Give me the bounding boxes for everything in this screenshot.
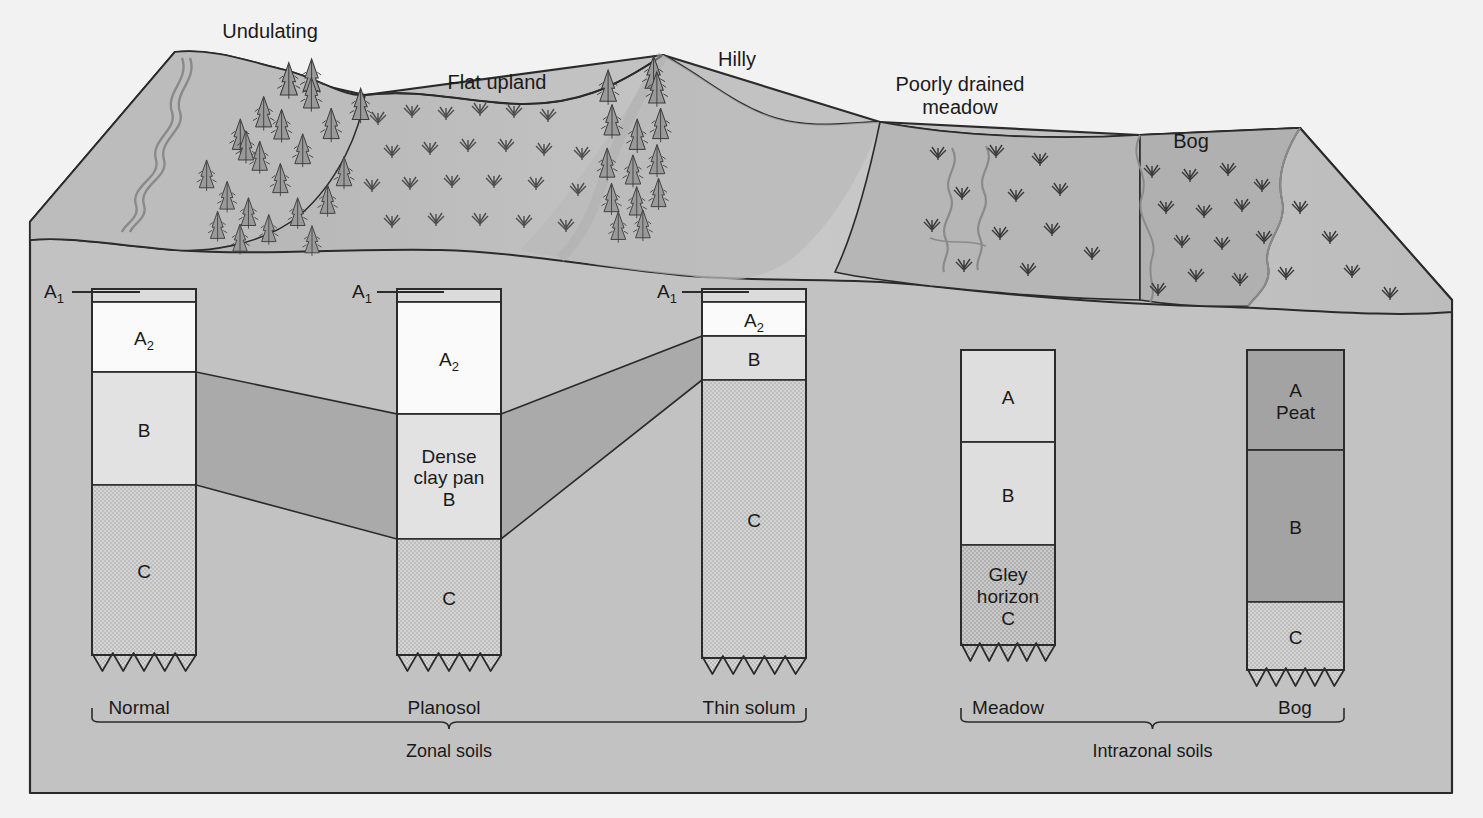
- profile-name-planosol: Planosol: [354, 697, 534, 719]
- horizon-label-meadow-C: GleyhorizonC: [961, 564, 1055, 630]
- group-label-zonal: Zonal soils: [309, 741, 589, 762]
- horizon-A1: [702, 289, 806, 302]
- profile-name-normal: Normal: [49, 697, 229, 719]
- horizon-label-normal-C: C: [92, 561, 196, 583]
- soil-profile-thin-solum: [702, 289, 806, 674]
- landscape-label-undulating: Undulating: [150, 20, 390, 43]
- horizon-label-planosol-A2: A2: [397, 349, 501, 375]
- horizon-label-bog-C: C: [1247, 627, 1344, 649]
- landscape-label-hilly: Hilly: [617, 48, 857, 71]
- horizon-label-meadow-AB2: B: [961, 485, 1055, 507]
- horizon-label-planosol-C: C: [397, 588, 501, 610]
- profile-name-thin-solum: Thin solum: [659, 697, 839, 719]
- axis-label-a1-normal: A1: [44, 281, 64, 307]
- horizon-label-meadow-AB: A: [961, 387, 1055, 409]
- axis-label-a1-planosol: A1: [352, 281, 372, 307]
- profile-name-bog: Bog: [1205, 697, 1385, 719]
- figure-canvas: A2BCNormalA2Denseclay panBCPlanosolA2BCT…: [0, 0, 1483, 818]
- horizon-label-planosol-B: Denseclay panB: [397, 446, 501, 512]
- horizon-label-thin-solum-C: C: [702, 510, 806, 532]
- landscape-label-poorly-drained-meadow: Poorly drainedmeadow: [840, 73, 1080, 119]
- horizon-label-thin-solum-A2: A2: [702, 310, 806, 336]
- axis-label-a1-thinsolum: A1: [657, 281, 677, 307]
- landscape-label-flat-upland: Flat upland: [377, 71, 617, 94]
- horizon-A1: [92, 289, 196, 302]
- horizon-label-normal-B: B: [92, 420, 196, 442]
- group-label-intrazonal: Intrazonal soils: [1013, 741, 1293, 762]
- horizon-label-thin-solum-B: B: [702, 349, 806, 371]
- horizon-label-normal-A2: A2: [92, 328, 196, 354]
- horizon-label-bog-B: B: [1247, 517, 1344, 539]
- horizon-label-bog-A: APeat: [1247, 380, 1344, 424]
- landscape-label-bog: Bog: [1071, 130, 1311, 153]
- profile-name-meadow: Meadow: [918, 697, 1098, 719]
- horizon-A1: [397, 289, 501, 302]
